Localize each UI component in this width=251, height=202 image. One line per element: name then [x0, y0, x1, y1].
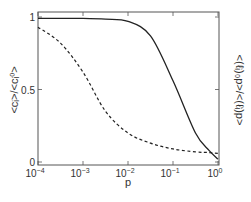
series-solid-line [38, 18, 218, 159]
y-tick-label: 0 [29, 157, 35, 168]
chart: 10−410−310−210−1100 00.51 p <cᵢ>/<cᵢ⁰> <… [0, 0, 251, 202]
axis-ticks [38, 12, 219, 165]
x-tick-label: 10−1 [160, 167, 179, 179]
series-dashed-line [38, 27, 218, 153]
y-tick-label: 1 [29, 12, 35, 23]
x-tick-label: 100 [207, 167, 222, 179]
y-axis-label-left: <cᵢ>/<cᵢ⁰> [8, 66, 20, 113]
plot-frame [38, 12, 219, 165]
y-axis-label-right: <(ℓᵢ)₀p>/<(ℓᵢ)p> [234, 55, 246, 126]
x-tick-label: 10−3 [70, 167, 89, 179]
x-axis-label: p [125, 176, 131, 188]
y-tick-label: 0.5 [21, 85, 35, 96]
y-tick-labels: 00.51 [21, 12, 35, 168]
x-tick-label: 10−4 [25, 167, 44, 179]
